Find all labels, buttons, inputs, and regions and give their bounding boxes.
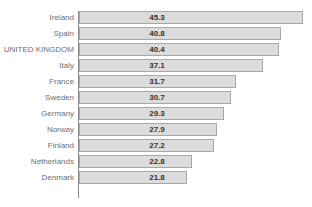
category-label: UNITED KINGDOM bbox=[0, 44, 74, 56]
category-label: Finland bbox=[0, 140, 74, 152]
category-label: Italy bbox=[0, 60, 74, 72]
bar-value-label: 27.9 bbox=[128, 124, 186, 135]
bar bbox=[79, 11, 303, 24]
bar-row: Italy37.1 bbox=[0, 59, 312, 75]
category-label: Sweden bbox=[0, 92, 74, 104]
bar-value-label: 29.3 bbox=[128, 108, 186, 119]
bar-value-label: 40.4 bbox=[128, 44, 186, 55]
category-label: France bbox=[0, 76, 74, 88]
bar-chart-figure: Ireland45.3Spain40.8UNITED KINGDOM40.4It… bbox=[0, 0, 312, 207]
bar-row: Finland27.2 bbox=[0, 139, 312, 155]
bar-value-label: 27.2 bbox=[128, 140, 186, 151]
category-label: Ireland bbox=[0, 12, 74, 24]
bar-row: Norway27.9 bbox=[0, 123, 312, 139]
bar-value-label: 31.7 bbox=[128, 76, 186, 87]
plot-area: Ireland45.3Spain40.8UNITED KINGDOM40.4It… bbox=[0, 11, 312, 201]
bar-value-label: 37.1 bbox=[128, 60, 186, 71]
bar-row: Spain40.8 bbox=[0, 27, 312, 43]
bar-row: Denmark21.8 bbox=[0, 171, 312, 187]
category-label: Germany bbox=[0, 108, 74, 120]
bar-value-label: 40.8 bbox=[128, 28, 186, 39]
category-label: Netherlands bbox=[0, 156, 74, 168]
bar-value-label: 22.8 bbox=[128, 156, 186, 167]
bar-row: France31.7 bbox=[0, 75, 312, 91]
bar-row: Netherlands22.8 bbox=[0, 155, 312, 171]
category-label: Norway bbox=[0, 124, 74, 136]
bar-row: Ireland45.3 bbox=[0, 11, 312, 27]
category-label: Spain bbox=[0, 28, 74, 40]
bar-value-label: 30.7 bbox=[128, 92, 186, 103]
bar-row: UNITED KINGDOM40.4 bbox=[0, 43, 312, 59]
chart-title-clipped bbox=[0, 0, 312, 9]
bar-row: Germany29.3 bbox=[0, 107, 312, 123]
bar-row: Sweden30.7 bbox=[0, 91, 312, 107]
bar-value-label: 45.3 bbox=[128, 12, 186, 23]
bar-value-label: 21.8 bbox=[128, 172, 186, 183]
category-label: Denmark bbox=[0, 172, 74, 184]
